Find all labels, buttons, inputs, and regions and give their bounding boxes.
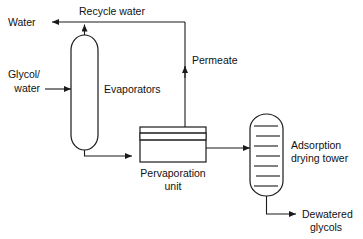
label-glycol-water-line1: Glycol/ [8, 68, 40, 80]
process-flow-diagram: Water Recycle water Glycol/ water Evapor… [0, 0, 363, 239]
label-adsorption-line1: Adsorption [291, 139, 341, 151]
label-evaporators: Evaporators [104, 83, 161, 95]
label-dewatered-line2: glycols [310, 221, 342, 233]
pervaporation-membrane-layer [140, 133, 206, 140]
flow-diagram-canvas: Water Recycle water Glycol/ water Evapor… [0, 0, 363, 239]
evaporator-bottoms-line [85, 150, 133, 156]
label-pervaporation-line1: Pervaporation [140, 167, 206, 179]
label-glycol-water-line2: water [13, 82, 40, 94]
label-adsorption-line2: drying tower [291, 152, 349, 164]
pervaporation-unit-box [140, 127, 206, 162]
dewatered-glycols-line [267, 196, 297, 214]
label-permeate: Permeate [192, 54, 238, 66]
label-water: Water [8, 16, 36, 28]
label-pervaporation-line2: unit [165, 180, 182, 192]
evaporators-vessel [71, 35, 98, 150]
label-recycle-water: Recycle water [79, 5, 145, 17]
label-dewatered-line1: Dewatered [302, 208, 353, 220]
